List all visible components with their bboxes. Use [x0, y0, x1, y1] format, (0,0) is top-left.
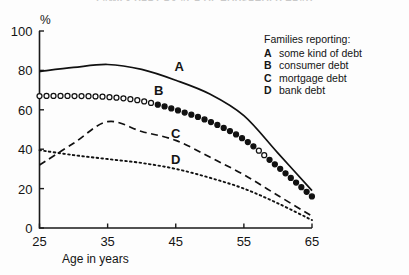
legend-key-b: B	[264, 59, 279, 72]
svg-text:80: 80	[18, 63, 32, 78]
cut-off-chart-title: FAMILY DEBT BY AGE OF HOUSEHOLD HEAD	[0, 0, 409, 1]
chart-legend: Families reporting: A some kind of debt …	[264, 33, 409, 97]
svg-text:100: 100	[11, 24, 33, 39]
legend-item-c: C mortgage debt	[264, 72, 409, 85]
chart-figure: FAMILY DEBT BY AGE OF HOUSEHOLD HEAD 253…	[0, 0, 409, 275]
legend-item-b: B consumer debt	[264, 59, 409, 72]
legend-title: Families reporting:	[264, 33, 409, 46]
curve-label-c: C	[171, 126, 181, 141]
svg-text:60: 60	[18, 103, 32, 118]
legend-key-d: D	[264, 84, 279, 97]
curve-label-d: D	[171, 152, 180, 167]
svg-text:20: 20	[18, 182, 32, 197]
legend-key-c: C	[264, 72, 279, 85]
y-axis-tick-labels: 020406080100	[11, 24, 33, 236]
svg-text:65: 65	[305, 234, 319, 249]
curve-labels: ABCD	[154, 59, 184, 167]
y-axis-unit-label: %	[40, 13, 51, 27]
svg-text:55: 55	[237, 234, 251, 249]
legend-key-a: A	[264, 47, 279, 60]
svg-text:40: 40	[18, 142, 32, 157]
svg-text:45: 45	[169, 234, 183, 249]
curve-label-b: B	[154, 83, 163, 98]
legend-item-a: A some kind of debt	[264, 47, 409, 60]
curve-label-a: A	[174, 59, 184, 74]
legend-label-a: some kind of debt	[279, 47, 409, 60]
svg-text:0: 0	[25, 221, 32, 236]
legend-label-c: mortgage debt	[279, 72, 409, 85]
x-axis-tick-labels: 2535455565	[32, 234, 319, 249]
svg-text:25: 25	[32, 234, 46, 249]
legend-item-d: D bank debt	[264, 84, 409, 97]
legend-label-d: bank debt	[279, 84, 409, 97]
legend-label-b: consumer debt	[279, 59, 409, 72]
svg-text:35: 35	[100, 234, 114, 249]
x-axis-title: Age in years	[62, 252, 129, 266]
